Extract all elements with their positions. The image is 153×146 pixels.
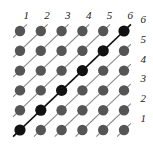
lattice-node-r2c5[interactable] [98, 45, 109, 56]
lattice-node-r3c1[interactable] [15, 65, 25, 75]
lattice-node-r2c6[interactable] [119, 46, 129, 56]
lattice-node-r1c6[interactable] [118, 25, 129, 36]
row-label-5: 5 [141, 34, 147, 45]
lattice-node-r5c5[interactable] [98, 105, 108, 115]
lattice-figure: 123456 654321 [0, 0, 153, 146]
lattice-node-r2c4[interactable] [77, 46, 87, 56]
lattice-node-r1c3[interactable] [56, 26, 66, 36]
lattice-node-r3c2[interactable] [36, 65, 46, 75]
lattice-node-r5c4[interactable] [77, 105, 87, 115]
lattice-node-r6c1[interactable] [14, 124, 25, 135]
lattice-node-r3c3[interactable] [56, 65, 66, 75]
row-label-4: 4 [141, 54, 147, 65]
column-label-6: 6 [128, 10, 134, 21]
lattice-node-r6c5[interactable] [98, 125, 108, 135]
lattice-node-r5c6[interactable] [119, 105, 129, 115]
lattice-node-r3c5[interactable] [98, 65, 108, 75]
lattice-node-r6c4[interactable] [77, 125, 87, 135]
lattice-node-r2c2[interactable] [36, 46, 46, 56]
column-label-2: 2 [44, 10, 50, 21]
lattice-node-r3c6[interactable] [119, 65, 129, 75]
lattice-node-r3c4[interactable] [77, 65, 88, 76]
lattice-node-r5c3[interactable] [56, 105, 66, 115]
lattice-node-r4c1[interactable] [15, 85, 25, 95]
column-label-5: 5 [107, 10, 113, 21]
lattice-node-r4c3[interactable] [56, 85, 67, 96]
lattice-node-r6c2[interactable] [36, 125, 46, 135]
lattice-node-r1c2[interactable] [36, 26, 46, 36]
lattice-canvas [0, 0, 153, 146]
lattice-node-r2c1[interactable] [15, 46, 25, 56]
lattice-node-r4c6[interactable] [119, 85, 129, 95]
lattice-node-r6c3[interactable] [56, 125, 66, 135]
column-label-3: 3 [65, 10, 71, 21]
column-label-4: 4 [86, 10, 92, 21]
lattice-node-r1c1[interactable] [15, 26, 25, 36]
lattice-lines-layer [13, 24, 131, 136]
lattice-node-r6c6[interactable] [119, 125, 129, 135]
lattice-node-r5c2[interactable] [35, 105, 46, 116]
lattice-node-r1c4[interactable] [77, 26, 87, 36]
row-label-3: 3 [141, 73, 147, 84]
row-label-2: 2 [141, 93, 147, 104]
lattice-node-r2c3[interactable] [56, 46, 66, 56]
lattice-node-r4c4[interactable] [77, 85, 87, 95]
row-label-6: 6 [141, 14, 147, 25]
lattice-node-r1c5[interactable] [98, 26, 108, 36]
lattice-node-r4c5[interactable] [98, 85, 108, 95]
lattice-node-r5c1[interactable] [15, 105, 25, 115]
lattice-node-r4c2[interactable] [36, 85, 46, 95]
row-label-1: 1 [141, 113, 147, 124]
column-label-1: 1 [24, 10, 30, 21]
